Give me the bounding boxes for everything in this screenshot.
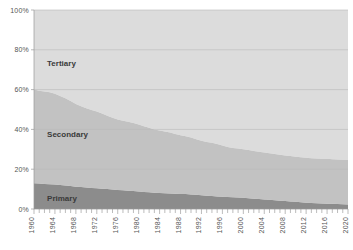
x-axis-label-1980: 1980 xyxy=(133,217,140,233)
y-axis-label-20: 20% xyxy=(14,166,29,173)
x-axis-label-1976: 1976 xyxy=(112,217,119,233)
x-axis-label-2020: 2020 xyxy=(342,217,349,233)
y-axis-label-0: 0% xyxy=(18,206,29,213)
x-axis-label-2000: 2000 xyxy=(237,217,244,233)
x-axis-label-1964: 1964 xyxy=(49,217,56,233)
series-label-tertiary: Tertiary xyxy=(47,59,76,68)
series-label-primary: Primary xyxy=(47,194,77,203)
x-axis-label-1992: 1992 xyxy=(195,217,202,233)
chart-canvas: 0%20%40%60%80%100%1960196419681972197619… xyxy=(0,0,353,250)
x-axis-label-2008: 2008 xyxy=(279,217,286,233)
y-axis-label-100: 100% xyxy=(10,7,29,14)
series-label-secondary: Secondary xyxy=(47,130,88,139)
x-axis-label-2004: 2004 xyxy=(258,217,265,233)
y-axis-label-60: 60% xyxy=(14,86,29,93)
y-axis-label-40: 40% xyxy=(14,126,29,133)
x-axis-label-1960: 1960 xyxy=(28,217,35,233)
x-axis-label-1968: 1968 xyxy=(70,217,77,233)
stacked-area-chart: 0%20%40%60%80%100%1960196419681972197619… xyxy=(0,0,353,250)
y-axis-label-80: 80% xyxy=(14,46,29,53)
x-axis-label-2016: 2016 xyxy=(321,217,328,233)
x-axis-label-1972: 1972 xyxy=(91,217,98,233)
x-axis-label-1988: 1988 xyxy=(175,217,182,233)
x-axis-label-1996: 1996 xyxy=(216,217,223,233)
x-axis-label-1984: 1984 xyxy=(154,217,161,233)
x-axis-label-2012: 2012 xyxy=(300,217,307,233)
